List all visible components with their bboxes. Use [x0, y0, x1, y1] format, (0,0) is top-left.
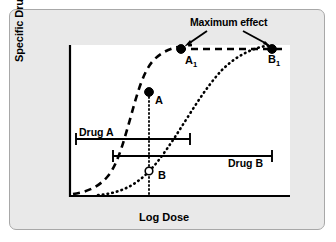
data-point-a1-label-base: A	[185, 54, 193, 66]
maximum-effect-arrow-right	[243, 31, 271, 47]
data-point-a-marker	[145, 88, 154, 97]
data-point-b-marker	[145, 167, 153, 175]
data-point-b1-label-base: B	[268, 53, 276, 65]
maximum-effect-label: Maximum effect	[190, 17, 267, 28]
chart-canvas	[0, 0, 336, 242]
data-point-a1-label: A1	[185, 55, 197, 69]
y-axis-title: Specific Drug Effect	[14, 0, 25, 62]
figure-container: Specific Drug Effect Log Dose Maximum ef…	[0, 0, 336, 242]
x-axis-title: Log Dose	[139, 212, 189, 223]
drug-a-range-label: Drug A	[79, 127, 114, 138]
data-point-b1-label: B1	[268, 54, 280, 68]
drug-b-range-label: Drug B	[228, 158, 263, 169]
data-point-b1-label-subscript: 1	[276, 59, 280, 68]
maximum-effect-arrow-left	[184, 31, 207, 47]
data-point-a1-marker	[177, 45, 186, 54]
data-point-a-label: A	[155, 95, 163, 106]
plot-area-background	[69, 45, 290, 197]
data-point-a1-label-subscript: 1	[193, 60, 197, 69]
data-point-b-label: B	[158, 170, 166, 181]
